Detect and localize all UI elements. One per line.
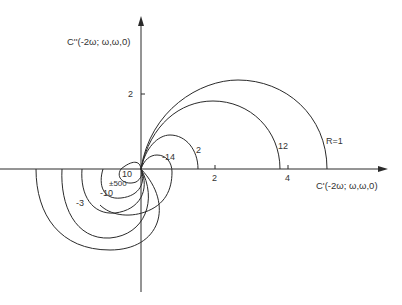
curve-label-12: 12 <box>278 142 288 151</box>
curve-label-r1: R=1 <box>326 137 343 146</box>
x-tick-label-2: 2 <box>212 174 217 183</box>
curve-label-minus10: -10 <box>100 189 113 198</box>
curve-label-minus14: -14 <box>162 153 175 162</box>
x-axis-arrow-icon <box>378 166 388 172</box>
y-axis-arrow-icon <box>138 16 144 26</box>
x-tick-label-4: 4 <box>285 174 290 183</box>
curve-label-10: 10 <box>122 170 132 179</box>
curve-label-minus3: -3 <box>76 199 84 208</box>
x-axis-label: C'(-2ω; ω,ω,0) <box>316 181 378 191</box>
curve-rminus3 <box>62 169 149 238</box>
curve-label-2: 2 <box>196 146 201 155</box>
curve-label-500: ±500 <box>109 180 127 188</box>
y-tick-label-2: 2 <box>128 90 133 99</box>
y-axis-label: C''(-2ω; ω,ω,0) <box>67 37 130 47</box>
curve-rminus10 <box>82 169 144 213</box>
